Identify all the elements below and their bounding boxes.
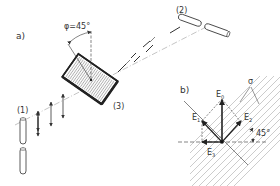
label-E1: E1: [192, 113, 200, 123]
vector-E2: [222, 121, 241, 142]
diagram-canvas: a) (1): [0, 0, 280, 186]
antenna-1: (1): [17, 106, 28, 174]
part-b: b): [150, 76, 280, 186]
angle-45-label: 45°: [256, 129, 270, 138]
origin-point: [220, 140, 224, 144]
angle-arc: [71, 32, 91, 41]
antenna-1-label: (1): [17, 106, 28, 115]
angle-phi-label: φ=45°: [64, 22, 90, 31]
antenna-2: [178, 13, 231, 37]
part-a: a) (1): [15, 6, 231, 174]
polarizer-grid: [62, 54, 117, 104]
label-E3: E3: [207, 148, 215, 158]
diagonal-field-arrows: [118, 27, 180, 72]
sigma-label: σ: [248, 77, 253, 86]
angle-45-arrow-top: [250, 128, 253, 132]
part-b-label: b): [180, 85, 189, 95]
part-a-label: a): [16, 31, 25, 41]
antenna-2-label: (2): [176, 6, 187, 15]
label-E2: E2: [244, 113, 252, 123]
polarizer-label: (3): [113, 102, 124, 111]
sigma-leader-2: [251, 87, 259, 104]
vertical-field-arrows: [38, 94, 63, 136]
label-E0: E0: [216, 90, 224, 100]
